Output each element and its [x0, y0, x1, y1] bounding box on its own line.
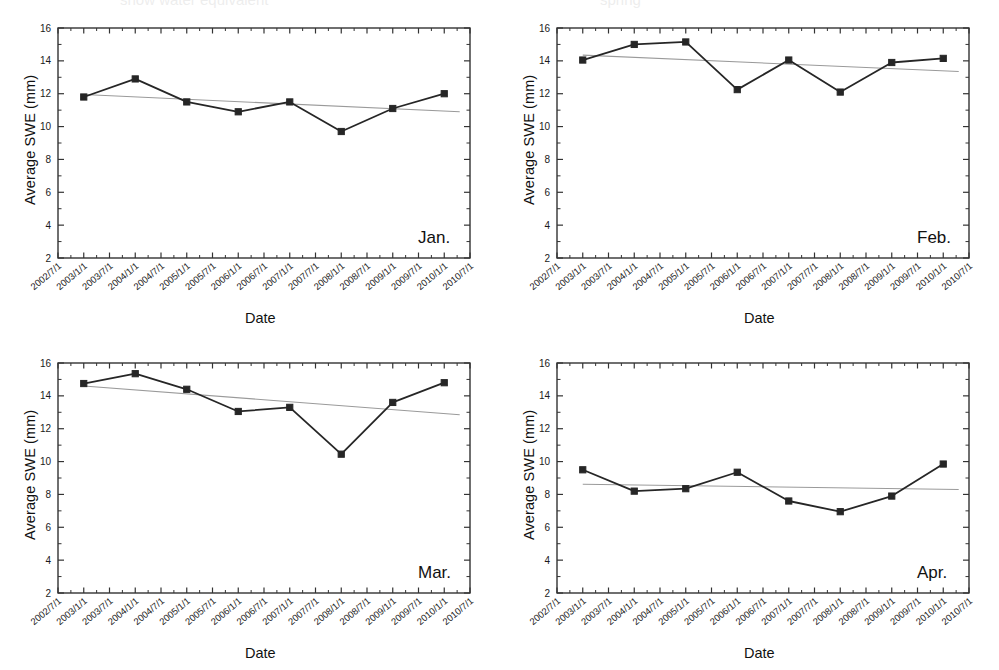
figure-panel-grid: 2468101214162002/7/12003/1/12003/7/12004… [0, 0, 999, 670]
y-tick-label: 12 [539, 423, 551, 434]
data-point-marker [287, 404, 293, 410]
data-point-markers [580, 39, 947, 95]
x-axis-title: Date [245, 645, 276, 661]
y-tick-label: 4 [544, 555, 550, 566]
y-tick-label: 8 [544, 489, 550, 500]
y-tick-label: 12 [539, 88, 551, 99]
data-series-line [84, 374, 445, 455]
data-point-marker [338, 451, 344, 457]
data-series-line [583, 42, 944, 92]
trend-line [84, 95, 460, 112]
y-tick-label: 10 [539, 456, 551, 467]
y-tick-label: 8 [45, 154, 51, 165]
y-axis-ticks [58, 363, 470, 593]
x-axis-title: Date [245, 310, 276, 326]
y-tick-label: 2 [45, 588, 51, 599]
x-axis-ticks [58, 363, 470, 593]
y-tick-label: 16 [40, 358, 52, 369]
y-tick-label: 10 [40, 456, 52, 467]
data-point-marker [441, 380, 447, 386]
y-axis-title: Average SWE (mm) [22, 410, 38, 540]
y-tick-labels: 246810121416 [539, 358, 551, 599]
chart-panel-apr: 2468101214162002/7/12003/1/12003/7/12004… [499, 335, 999, 670]
plot-frame [58, 363, 470, 593]
panel-month-label: Apr. [917, 563, 947, 583]
y-tick-label: 2 [45, 253, 51, 264]
x-axis-title: Date [744, 310, 775, 326]
y-tick-label: 14 [40, 390, 52, 401]
y-tick-label: 6 [45, 187, 51, 198]
data-point-marker [441, 91, 447, 97]
data-point-marker [235, 109, 241, 115]
data-point-marker [683, 486, 689, 492]
y-tick-label: 4 [544, 220, 550, 231]
y-tick-label: 2 [544, 588, 550, 599]
data-point-marker [889, 493, 895, 499]
y-tick-label: 4 [45, 220, 51, 231]
x-tick-labels: 2002/7/12003/1/12003/7/12004/1/12004/7/1… [527, 595, 974, 627]
data-point-marker [184, 386, 190, 392]
plot-frame [557, 363, 969, 593]
data-point-marker [81, 380, 87, 386]
y-tick-label: 6 [45, 522, 51, 533]
data-point-marker [889, 59, 895, 65]
y-tick-label: 10 [539, 121, 551, 132]
data-point-marker [940, 55, 946, 61]
y-axis-ticks [557, 363, 969, 593]
chart-svg: 2468101214162002/7/12003/1/12003/7/12004… [499, 335, 998, 670]
y-tick-label: 16 [539, 23, 551, 34]
y-tick-labels: 246810121416 [40, 358, 52, 599]
data-point-marker [837, 89, 843, 95]
data-point-marker [580, 467, 586, 473]
x-tick-labels: 2002/7/12003/1/12003/7/12004/1/12004/7/1… [527, 260, 974, 292]
y-tick-label: 4 [45, 555, 51, 566]
data-point-marker [734, 469, 740, 475]
y-tick-label: 10 [40, 121, 52, 132]
data-point-marker [132, 76, 138, 82]
data-point-marker [683, 39, 689, 45]
x-axis-ticks [557, 363, 969, 593]
data-point-markers [81, 76, 448, 135]
chart-svg: 2468101214162002/7/12003/1/12003/7/12004… [0, 335, 499, 670]
trend-line [84, 386, 460, 415]
y-tick-label: 14 [539, 390, 551, 401]
chart-panel-jan: 2468101214162002/7/12003/1/12003/7/12004… [0, 0, 499, 335]
data-point-marker [390, 105, 396, 111]
panel-month-label: Jan. [418, 228, 450, 248]
chart-svg: 2468101214162002/7/12003/1/12003/7/12004… [499, 0, 998, 335]
y-tick-label: 6 [544, 187, 550, 198]
data-point-marker [940, 461, 946, 467]
data-point-marker [734, 87, 740, 93]
data-point-marker [81, 94, 87, 100]
chart-panel-feb: 2468101214162002/7/12003/1/12003/7/12004… [499, 0, 999, 335]
panel-month-label: Feb. [917, 228, 951, 248]
y-axis-title: Average SWE (mm) [521, 75, 537, 205]
y-axis-title: Average SWE (mm) [22, 75, 38, 205]
y-tick-labels: 246810121416 [539, 23, 551, 264]
x-tick-labels: 2002/7/12003/1/12003/7/12004/1/12004/7/1… [28, 260, 475, 292]
data-point-markers [81, 371, 448, 458]
data-point-marker [631, 41, 637, 47]
x-axis-ticks [58, 28, 470, 258]
plot-frame [58, 28, 470, 258]
y-tick-labels: 246810121416 [40, 23, 52, 264]
data-point-marker [786, 57, 792, 63]
data-point-marker [184, 99, 190, 105]
chart-panel-mar: 2468101214162002/7/12003/1/12003/7/12004… [0, 335, 499, 670]
data-point-markers [580, 461, 947, 515]
data-point-marker [235, 408, 241, 414]
y-tick-label: 16 [539, 358, 551, 369]
y-tick-label: 8 [45, 489, 51, 500]
data-point-marker [837, 509, 843, 515]
x-tick-labels: 2002/7/12003/1/12003/7/12004/1/12004/7/1… [28, 595, 475, 627]
y-tick-label: 6 [544, 522, 550, 533]
chart-svg: 2468101214162002/7/12003/1/12003/7/12004… [0, 0, 499, 335]
y-tick-label: 12 [40, 88, 52, 99]
data-point-marker [390, 399, 396, 405]
y-tick-label: 14 [40, 55, 52, 66]
data-point-marker [580, 57, 586, 63]
y-tick-label: 12 [40, 423, 52, 434]
y-axis-title: Average SWE (mm) [521, 410, 537, 540]
y-axis-ticks [58, 28, 470, 258]
data-point-marker [132, 371, 138, 377]
